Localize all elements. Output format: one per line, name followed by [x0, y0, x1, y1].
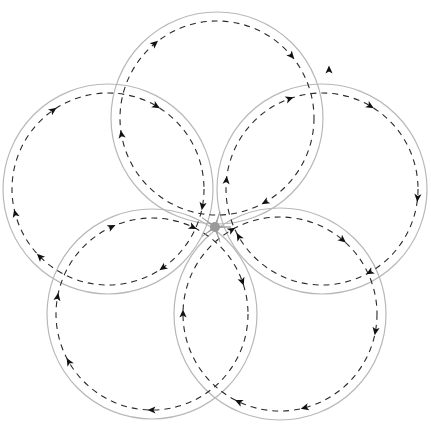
arrow-icon — [150, 38, 161, 49]
arrow-icon — [188, 222, 198, 232]
diagram-canvas — [0, 0, 431, 428]
stray-arrow-icon — [325, 66, 332, 74]
arrow-icon — [300, 403, 310, 412]
arrow-icon — [107, 222, 117, 232]
outer-circle-bottom-right — [174, 208, 386, 420]
dashed-path-right — [226, 93, 418, 285]
star-core — [210, 222, 220, 232]
arrow-icon — [238, 277, 248, 287]
arrow-icon — [365, 101, 376, 111]
arrow-icon — [198, 202, 206, 211]
arrow-icon — [286, 51, 297, 62]
arrow-icon — [285, 94, 295, 104]
arrow-icon — [223, 176, 231, 185]
arrow-icon — [260, 197, 271, 207]
arrow-icon — [414, 194, 422, 203]
dashed-flow-paths — [12, 21, 418, 411]
dashed-path-bottom-left — [56, 218, 248, 410]
arrow-icon — [48, 105, 59, 115]
arrow-icon — [53, 292, 61, 301]
arrow-icon — [64, 356, 74, 367]
outer-circle-left — [3, 84, 213, 294]
five-circle-flow-diagram — [0, 0, 431, 428]
outer-circle-bottom-left — [47, 209, 257, 419]
arrow-icon — [371, 327, 379, 336]
arrow-icon — [234, 231, 244, 242]
arrow-icon — [11, 209, 20, 219]
arrow-icon — [233, 397, 243, 407]
arrow-icon — [157, 263, 168, 273]
dashed-path-bottom-right — [183, 217, 377, 411]
arrow-icon — [151, 101, 162, 111]
outer-circle-right — [217, 84, 427, 294]
